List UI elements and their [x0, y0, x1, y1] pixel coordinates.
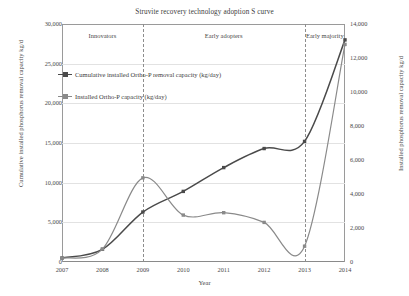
data-point-marker — [182, 190, 185, 193]
data-point-marker — [101, 247, 104, 250]
y-axis-left-tick-label: 0 — [22, 258, 62, 265]
x-axis-tick-label: 2009 — [123, 266, 163, 273]
x-axis-title: Year — [0, 279, 409, 286]
y-axis-left-tick-label: 10,000 — [22, 179, 62, 186]
y-axis-left-tick-label: 20,000 — [22, 99, 62, 106]
data-point-marker — [262, 221, 265, 224]
y-axis-right-tick-label: 6,000 — [350, 156, 390, 163]
series-layer — [62, 24, 345, 262]
y-axis-right-tick-label: 4,000 — [350, 190, 390, 197]
data-point-marker — [262, 147, 265, 150]
legend-item[interactable]: Installed Ortho-P capacity (kg/day) — [58, 90, 221, 103]
y-axis-right-tick-label: 10,000 — [350, 88, 390, 95]
data-point-marker — [222, 166, 225, 169]
chart-figure: Struvite recovery technology adoption S … — [0, 0, 409, 296]
x-axis-tick-label: 2008 — [82, 266, 122, 273]
y-axis-left-title: Cumulative installed phosphorus removal … — [17, 4, 24, 224]
data-point-marker — [141, 176, 144, 179]
x-axis-tick-label: 2012 — [244, 266, 284, 273]
data-point-marker — [303, 244, 306, 247]
chart-title: Struvite recovery technology adoption S … — [0, 8, 409, 16]
y-axis-left-tick-label: 15,000 — [22, 139, 62, 146]
y-axis-left-tick-label: 5,000 — [22, 218, 62, 225]
phase-label: Innovators — [67, 32, 137, 39]
x-axis-tick-label: 2007 — [42, 266, 82, 273]
phase-label: Early adopters — [189, 32, 259, 39]
x-axis-tick-label: 2010 — [163, 266, 203, 273]
data-point-marker — [141, 210, 144, 213]
y-axis-right-tick-label: 8,000 — [350, 122, 390, 129]
legend-item-label: Cumulative installed Ortho-P removal cap… — [75, 71, 221, 78]
y-axis-right-tick-label: 0 — [350, 258, 390, 265]
y-axis-right-title: Installed phosphorus removal capacity kg… — [397, 4, 404, 224]
y-axis-left-tick-label: 25,000 — [22, 60, 62, 67]
legend: Cumulative installed Ortho-P removal cap… — [58, 68, 221, 112]
x-axis-tick-label: 2013 — [285, 266, 325, 273]
legend-item[interactable]: Cumulative installed Ortho-P removal cap… — [58, 68, 221, 81]
data-point-marker — [343, 43, 346, 46]
plot-area — [62, 24, 345, 262]
data-point-marker — [303, 140, 306, 143]
y-axis-left-tick-label: 30,000 — [22, 20, 62, 27]
phase-label: Early majority — [290, 32, 360, 39]
data-point-marker — [222, 211, 225, 214]
x-axis-tick-label: 2011 — [204, 266, 244, 273]
y-axis-right-tick-label: 2,000 — [350, 224, 390, 231]
y-axis-right-tick-label: 14,000 — [350, 20, 390, 27]
y-axis-right-tick-label: 12,000 — [350, 54, 390, 61]
legend-line-icon — [58, 70, 72, 79]
data-point-marker — [182, 213, 185, 216]
legend-line-icon — [58, 92, 72, 101]
legend-item-label: Installed Ortho-P capacity (kg/day) — [75, 93, 167, 100]
x-axis-tick-label: 2014 — [325, 266, 365, 273]
